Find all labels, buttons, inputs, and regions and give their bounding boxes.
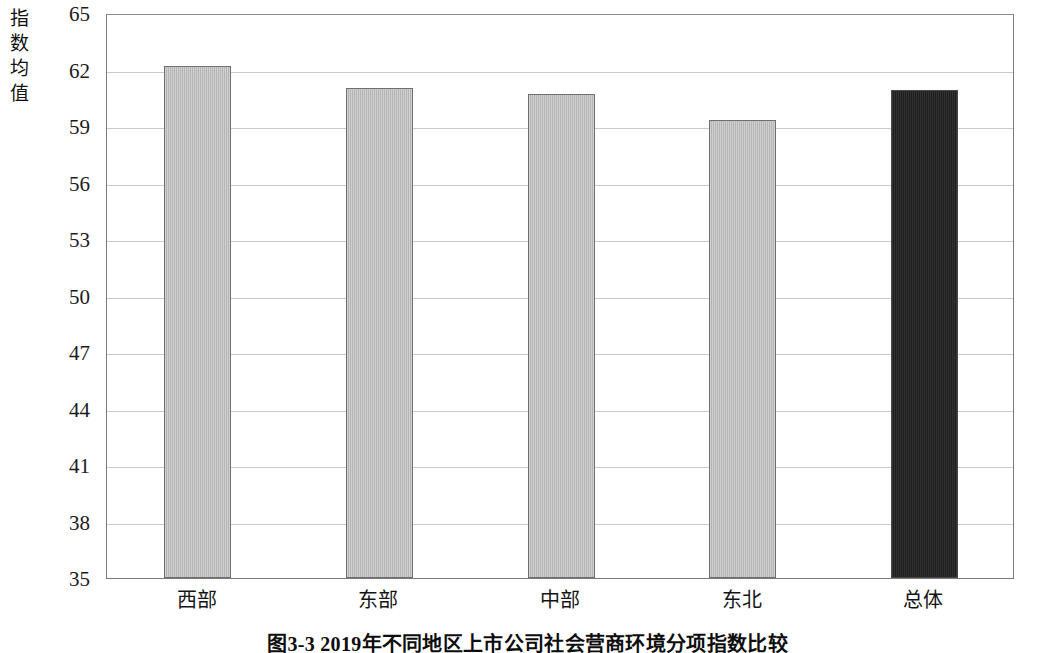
x-axis-tick-label: 东部 (358, 586, 398, 614)
y-axis-title-char: 值 (6, 81, 32, 106)
y-axis-title-char: 指 (6, 6, 32, 31)
y-axis-tick-label: 47 (69, 343, 90, 364)
plot-area (106, 14, 1014, 579)
y-axis-title-char: 均 (6, 56, 32, 81)
y-axis-tick-label: 41 (69, 456, 90, 477)
x-axis-tick-label: 总体 (903, 586, 943, 614)
bar[interactable] (346, 88, 413, 578)
y-axis-tick-label: 62 (69, 61, 90, 82)
bar[interactable] (528, 94, 595, 578)
y-axis-tick-label: 59 (69, 117, 90, 138)
y-axis-title: 指 数 均 值 (6, 6, 32, 106)
bar[interactable] (709, 120, 776, 578)
figure-container: 指 数 均 值 3538414447505356596265 西部东部中部东北总… (0, 0, 1055, 653)
y-axis-tick-label: 38 (69, 513, 90, 534)
y-axis-tick-label: 44 (69, 400, 90, 421)
x-axis-tick-labels: 西部东部中部东北总体 (106, 586, 1014, 618)
x-axis-tick-label: 西部 (177, 586, 217, 614)
y-axis-tick-label: 50 (69, 287, 90, 308)
y-axis-tick-labels: 3538414447505356596265 (40, 0, 98, 600)
bar[interactable] (164, 66, 231, 578)
y-axis-tick-label: 35 (69, 569, 90, 590)
bar-series (107, 15, 1013, 578)
x-axis-tick-label: 中部 (540, 586, 580, 614)
x-axis-tick-label: 东北 (722, 586, 762, 614)
figure-caption: 图3-3 2019年不同地区上市公司社会营商环境分项指数比较 (0, 632, 1055, 653)
bar[interactable] (891, 90, 958, 578)
y-axis-tick-label: 56 (69, 174, 90, 195)
y-axis-tick-label: 65 (69, 4, 90, 25)
y-axis-title-char: 数 (6, 31, 32, 56)
y-axis-tick-label: 53 (69, 230, 90, 251)
